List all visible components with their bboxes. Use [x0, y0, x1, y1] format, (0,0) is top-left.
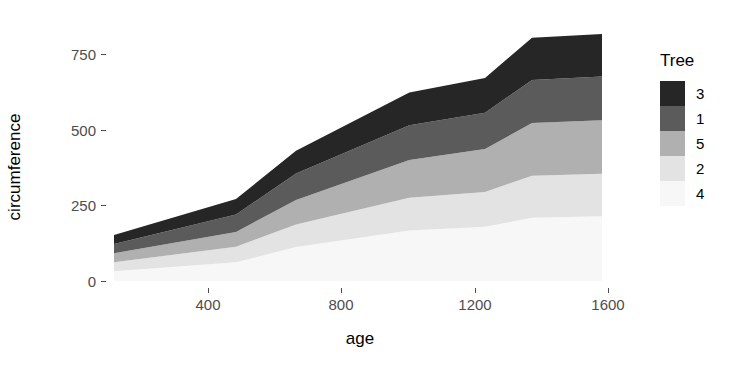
legend-swatch-4 — [660, 181, 685, 206]
x-tick-label-400: 400 — [195, 297, 220, 312]
x-tick-mark-1200 — [475, 288, 476, 293]
legend-swatch-3 — [660, 81, 685, 106]
legend-item-3[interactable]: 3 — [652, 81, 738, 106]
y-tick-mark-500 — [101, 130, 106, 131]
legend-item-5[interactable]: 5 — [652, 131, 738, 156]
y-tick-label-750: 750 — [46, 47, 96, 62]
legend-label-2: 2 — [696, 161, 704, 176]
legend-label-5: 5 — [696, 136, 704, 151]
legend-swatch-1 — [660, 106, 685, 131]
y-tick-mark-0 — [101, 281, 106, 282]
y-tick-label-500: 500 — [46, 123, 96, 138]
y-tick-label-0: 0 — [46, 274, 96, 289]
legend-item-1[interactable]: 1 — [652, 106, 738, 131]
legend-label-3: 3 — [696, 86, 704, 101]
legend-label-4: 4 — [696, 186, 704, 201]
legend-swatch-2 — [660, 156, 685, 181]
legend-swatch-5 — [660, 131, 685, 156]
y-tick-mark-250 — [101, 205, 106, 206]
y-tick-mark-750 — [101, 54, 106, 55]
chart-root: 750 500 250 0 circumference 400 800 1200… — [0, 0, 738, 369]
legend-label-1: 1 — [696, 111, 704, 126]
legend: Tree 3 1 5 2 4 — [652, 52, 738, 206]
legend-item-2[interactable]: 2 — [652, 156, 738, 181]
x-tick-mark-800 — [341, 288, 342, 293]
y-tick-label-250: 250 — [46, 198, 96, 213]
x-tick-label-1200: 1200 — [458, 297, 491, 312]
x-tick-mark-400 — [208, 288, 209, 293]
x-axis-title: age — [346, 330, 374, 347]
x-tick-label-800: 800 — [328, 297, 353, 312]
legend-item-4[interactable]: 4 — [652, 181, 738, 206]
x-tick-mark-1600 — [608, 288, 609, 293]
x-tick-label-1600: 1600 — [591, 297, 624, 312]
y-axis-title: circumference — [6, 114, 23, 221]
area-layer-group — [114, 34, 602, 281]
legend-title: Tree — [660, 52, 738, 69]
